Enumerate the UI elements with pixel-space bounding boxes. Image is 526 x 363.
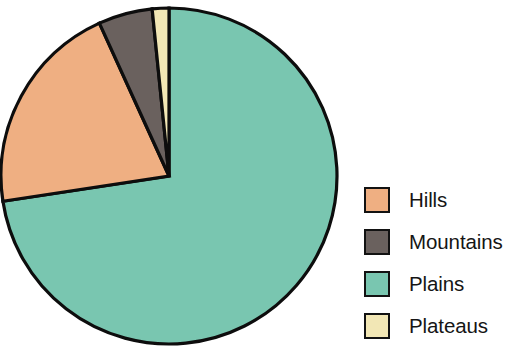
legend-label-plains: Plains [409, 274, 464, 295]
pie-slice-group [1, 8, 337, 344]
chart-legend: Hills Mountains Plains Plateaus [364, 186, 526, 340]
legend-swatch-mountains [364, 229, 390, 255]
legend-label-plateaus: Plateaus [409, 316, 488, 337]
pie-chart-figure: Hills Mountains Plains Plateaus [0, 0, 526, 363]
legend-swatch-plains [364, 271, 390, 297]
pie-plot-area [0, 0, 350, 363]
legend-swatch-plateaus [364, 313, 390, 339]
legend-label-hills: Hills [409, 190, 447, 211]
legend-item-plains[interactable]: Plains [364, 270, 526, 298]
legend-swatch-hills [364, 187, 390, 213]
legend-label-mountains: Mountains [409, 232, 503, 253]
legend-item-hills[interactable]: Hills [364, 186, 526, 214]
pie-svg [0, 0, 350, 363]
legend-item-mountains[interactable]: Mountains [364, 228, 526, 256]
legend-item-plateaus[interactable]: Plateaus [364, 312, 526, 340]
